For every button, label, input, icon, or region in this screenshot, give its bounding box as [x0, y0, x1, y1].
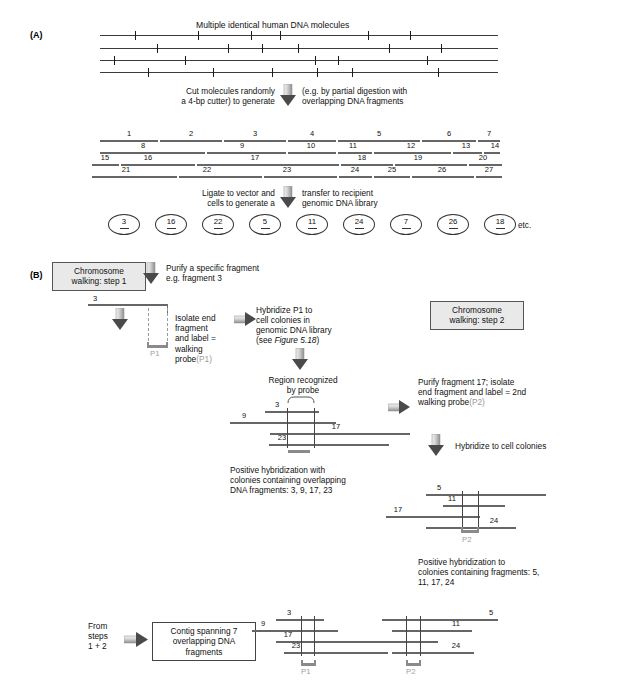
contig-probe2-tick-left	[406, 660, 408, 664]
isolate-probe-line: probe(P1)	[175, 354, 212, 364]
fragment-label: 19	[403, 153, 433, 162]
dna-molecule-1	[100, 35, 498, 36]
ligate-step-text-left: Ligate to vector and cells to generate a	[155, 188, 275, 208]
contig-probe2-tick-right	[419, 660, 421, 664]
panel-a-label: (A)	[30, 30, 43, 40]
fragment-label: 14	[480, 141, 510, 150]
right-arrow-icon-2	[388, 400, 412, 414]
colony-label: 7	[391, 215, 421, 228]
fragment-label: 25	[377, 165, 407, 174]
down-arrow-icon-4	[112, 308, 128, 332]
overlap-fragment-label: 17	[390, 505, 406, 514]
fragment-label: 12	[396, 141, 426, 150]
probe1-label: P1	[150, 349, 160, 358]
probe1-bar	[147, 345, 168, 348]
fragment-label: 3	[240, 129, 270, 138]
fragment-label: 10	[296, 141, 326, 150]
probe2-label: P2	[462, 535, 472, 544]
positive-hybridization-text-2: Positive hybridization to colonies conta…	[418, 557, 539, 588]
colony-circle[interactable]: 18	[484, 214, 516, 235]
probe1-tick-right	[166, 342, 168, 346]
fragment-label: 9	[227, 141, 257, 150]
cut-step-text-left: Cut molecules randomly a 4-bp cutter) to…	[155, 86, 275, 106]
dna-molecule-2	[100, 48, 498, 49]
dna-molecule-4	[100, 72, 498, 73]
ligate-step-text-right: transfer to recipient genomic DNA librar…	[302, 188, 378, 208]
down-arrow-icon-6	[428, 434, 444, 458]
contig-probe1-tick-right	[314, 660, 316, 664]
down-arrow-icon-1	[280, 84, 296, 108]
colony-label: 16	[156, 215, 186, 228]
panel-a-title: Multiple identical human DNA molecules	[196, 20, 349, 30]
positive-hybridization-text-1: Positive hybridization with colonies con…	[230, 465, 346, 496]
probe-guide-left	[148, 308, 149, 346]
probe2-tick-left	[461, 527, 463, 531]
fragment-label: 13	[451, 141, 481, 150]
contig-probe2-label: P2	[406, 667, 416, 676]
overlap-fragment-label: 11	[444, 494, 460, 503]
region-recognized-text: Region recognized by probe	[255, 375, 351, 395]
right-arrow-icon-3	[124, 632, 150, 647]
isolate-end-fragment-text: Isolate end fragment and label = walking	[175, 313, 216, 354]
colony-circle[interactable]: 11	[296, 214, 328, 235]
fragment3-label: 3	[88, 294, 102, 303]
chromosome-walking-step1-box: Chromosome walking: step 1	[52, 262, 146, 291]
fragment-label: 21	[111, 165, 141, 174]
overlap-fragment-label: 9	[237, 411, 251, 420]
contig-fragment-label: 9	[256, 619, 270, 628]
fragment-label: 26	[427, 165, 457, 174]
fragment-label: 16	[133, 153, 163, 162]
colony-circle[interactable]: 3	[108, 214, 140, 235]
probe-guide-right	[167, 308, 168, 346]
colony-circle[interactable]: 16	[155, 214, 187, 235]
fragment-label: 24	[340, 165, 370, 174]
hybridize-figure-ref: (see Figure 5.18)	[256, 335, 319, 345]
fragment-label: 15	[90, 153, 120, 162]
fragment-label: 2	[176, 129, 206, 138]
ref-suffix: )	[316, 335, 319, 345]
colony-circle[interactable]: 5	[249, 214, 281, 235]
fragment-label: 8	[128, 141, 158, 150]
fragment-label: 11	[338, 141, 368, 150]
contig-probe1-label: P1	[301, 667, 311, 676]
hybridize-colonies-text: Hybridize to cell colonies	[455, 441, 546, 451]
down-arrow-icon-2	[280, 186, 296, 210]
fragment-label: 17	[240, 153, 270, 162]
step2-overlap-diagram: 5 11 17 24	[388, 485, 578, 545]
colony-label: 22	[203, 215, 233, 228]
chromosome-walking-step2-box: Chromosome walking: step 2	[430, 301, 524, 330]
colony-label: 24	[344, 215, 374, 228]
colony-circle[interactable]: 24	[343, 214, 375, 235]
fragment-row-4: 21 22 23 24 25 26 27	[100, 166, 500, 178]
isolate-probe-p1: (P1)	[196, 354, 212, 364]
contig-fragment-label: 5	[484, 608, 498, 617]
contig-fragment-label: 3	[282, 608, 296, 617]
fragment-label: 22	[192, 165, 222, 174]
fragment-label: 4	[297, 129, 327, 138]
colony-label: 3	[109, 215, 139, 228]
step1-side-text: Purify a specific fragment e.g. fragment…	[166, 263, 259, 283]
contig-fragment-label: 17	[280, 630, 296, 639]
fragment-label: 23	[272, 165, 302, 174]
fragment3-line	[88, 304, 168, 306]
probe1-tick-left	[147, 342, 149, 346]
contig-fragment-label: 11	[448, 619, 464, 628]
fragment-label: 1	[114, 129, 144, 138]
fragment-label: 5	[364, 129, 394, 138]
contig-diagram: 3 5 9 11 17 23 24	[262, 608, 512, 678]
hybridize-p1-text: Hybridize P1 to cell colonies in genomic…	[256, 305, 332, 336]
colony-label: 26	[438, 215, 468, 228]
colony-circle[interactable]: 26	[437, 214, 469, 235]
colony-label: 18	[485, 215, 515, 228]
colony-circle[interactable]: 22	[202, 214, 234, 235]
fragment-label: 7	[474, 129, 504, 138]
probe2-tick-right	[477, 527, 479, 531]
fragment-label: 18	[347, 153, 377, 162]
step2-side-p2: (P2)	[469, 397, 485, 407]
contig-fragment-label: 24	[448, 641, 464, 650]
contig-box: Contig spanning 7 overlapping DNA fragme…	[152, 622, 256, 661]
colony-circle[interactable]: 7	[390, 214, 422, 235]
fragment-label: 27	[474, 165, 504, 174]
fragment-label: 6	[434, 129, 464, 138]
down-arrow-icon-3	[143, 262, 159, 286]
